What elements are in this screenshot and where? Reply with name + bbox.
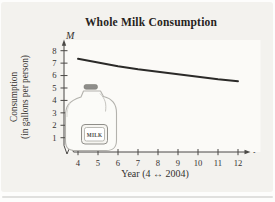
x-tick-label: 7 [136,158,141,168]
x-tick-label: 10 [194,158,203,168]
x-tick-label: 4 [76,158,81,168]
milk-jug-cap [84,85,98,90]
page-divider [2,196,273,198]
x-tick-label: 11 [214,158,222,168]
y-tick-label: 8 [52,46,56,56]
plot-area: 12345678 456789101112 MILK [0,0,275,202]
y-tick-label: 7 [52,58,57,68]
y-tick-label: 2 [52,120,56,130]
milk-consumption-figure: Whole Milk Consumption M t Consumption (… [0,0,275,202]
x-tick-label: 5 [96,158,100,168]
y-tick-label: 3 [52,108,56,118]
y-tick-label: 5 [52,83,56,93]
y-tick-label: 1 [52,133,56,143]
x-tick-label: 12 [234,158,243,168]
y-tick-label: 6 [52,70,57,80]
x-tick-label: 6 [116,158,121,168]
x-tick-label: 8 [156,158,160,168]
y-tick-label: 4 [52,95,57,105]
x-tick-label: 9 [176,158,180,168]
milk-jug-label: MILK [87,132,103,138]
